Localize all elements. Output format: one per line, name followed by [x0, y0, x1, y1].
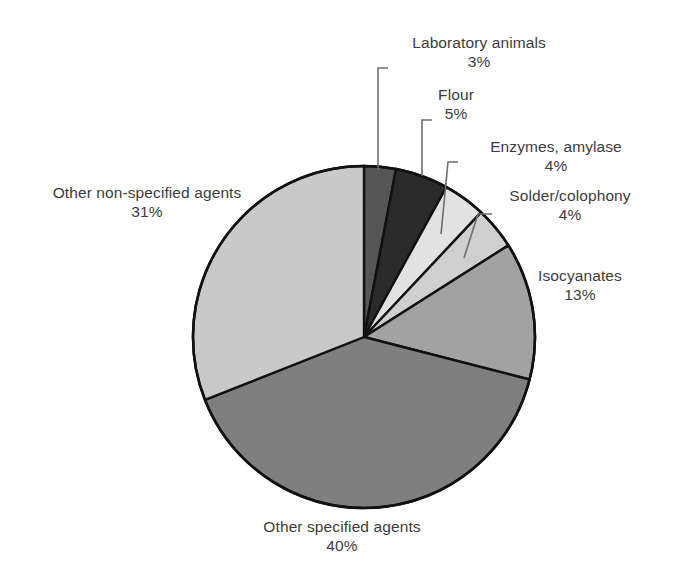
leader-line-laboratory-animals [378, 68, 388, 170]
slice-label-laboratory-animals: Laboratory animals 3% [384, 33, 574, 71]
leader-line-flour [422, 120, 432, 176]
slice-label-enzymes-amylase: Enzymes, amylase 4% [448, 137, 664, 175]
slice-label-name: Flour [390, 85, 522, 104]
slice-label-solder-colophony: Solder/colophony 4% [470, 186, 670, 224]
slice-label-percent: 4% [448, 156, 664, 175]
slice-label-percent: 13% [500, 285, 660, 304]
slice-label-flour: Flour 5% [390, 85, 522, 123]
slice-label-name: Other specified agents [222, 517, 462, 536]
slice-label-name: Laboratory animals [384, 33, 574, 52]
slice-label-isocyanates: Isocyanates 13% [500, 266, 660, 304]
slice-label-name: Solder/colophony [470, 186, 670, 205]
slice-label-other-non-specified-agents: Other non-specified agents 31% [22, 183, 272, 221]
slice-label-percent: 4% [470, 205, 670, 224]
pie-chart-figure: Laboratory animals 3% Flour 5% Enzymes, … [0, 0, 680, 572]
slice-label-percent: 40% [222, 536, 462, 555]
slice-label-other-specified-agents: Other specified agents 40% [222, 517, 462, 555]
slice-label-percent: 5% [390, 104, 522, 123]
slice-label-name: Enzymes, amylase [448, 137, 664, 156]
slice-label-percent: 31% [22, 202, 272, 221]
slice-label-name: Isocyanates [500, 266, 660, 285]
slice-label-percent: 3% [384, 52, 574, 71]
slice-label-name: Other non-specified agents [22, 183, 272, 202]
